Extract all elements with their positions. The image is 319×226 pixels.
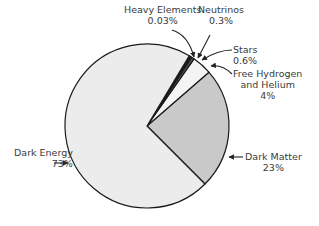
- label-dark-matter-pct: 23%: [245, 162, 302, 173]
- label-free-hydrogen-name2: and Helium: [233, 79, 302, 90]
- label-free-hydrogen: Free Hydrogen and Helium 4%: [233, 68, 302, 101]
- label-free-hydrogen-pct: 4%: [233, 90, 302, 101]
- label-heavy-elements: Heavy Elements 0.03%: [124, 4, 201, 26]
- pie-chart: [0, 0, 319, 226]
- label-heavy-elements-pct: 0.03%: [124, 15, 201, 26]
- label-stars: Stars 0.6%: [233, 44, 257, 66]
- arrow-neutrinos: [198, 35, 210, 58]
- label-stars-pct: 0.6%: [233, 55, 257, 66]
- label-dark-matter: Dark Matter 23%: [245, 151, 302, 173]
- label-dark-energy-pct: 73%: [14, 158, 73, 169]
- arrow-free-hydrogen: [211, 66, 232, 74]
- label-free-hydrogen-name1: Free Hydrogen: [233, 68, 302, 79]
- label-neutrinos-pct: 0.3%: [198, 15, 244, 26]
- label-neutrinos: Neutrinos 0.3%: [198, 4, 244, 26]
- label-dark-energy-name: Dark Energy: [14, 147, 73, 158]
- pie-slices: [65, 44, 229, 208]
- label-dark-matter-name: Dark Matter: [245, 151, 302, 162]
- label-heavy-elements-name: Heavy Elements: [124, 4, 201, 15]
- arrow-stars: [202, 50, 232, 60]
- label-neutrinos-name: Neutrinos: [198, 4, 244, 15]
- label-dark-energy: Dark Energy 73%: [14, 147, 73, 169]
- label-stars-name: Stars: [233, 44, 257, 55]
